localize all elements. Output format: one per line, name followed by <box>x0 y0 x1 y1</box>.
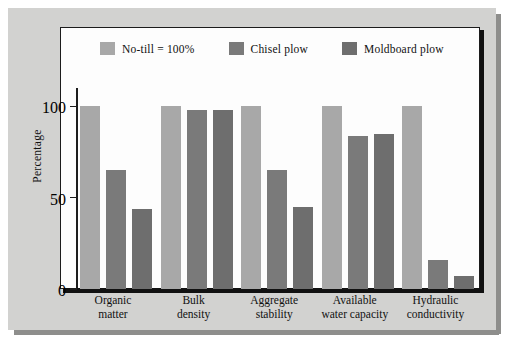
legend-item-moldboard-plow: Moldboard plow <box>342 42 444 55</box>
legend-swatch-chisel-plow <box>229 42 244 55</box>
bar <box>374 134 394 289</box>
bar <box>161 106 181 289</box>
page-bottom-shadow <box>14 330 499 335</box>
plot-area <box>77 88 480 289</box>
y-axis-title: Percentage <box>31 111 43 201</box>
panel-drop-shadow-right <box>480 30 484 291</box>
bar <box>293 207 313 289</box>
bar <box>106 170 126 289</box>
bar-group <box>402 88 474 289</box>
bar <box>187 110 207 289</box>
y-tick-label-100: 100 <box>24 99 66 113</box>
bar-group <box>241 88 313 289</box>
x-axis-label: Hydraulicconductivity <box>375 294 495 321</box>
bar <box>348 136 368 289</box>
y-tick-mark-50 <box>70 197 77 199</box>
chart-legend: No-till = 100% Chisel plow Moldboard plo… <box>100 42 444 55</box>
bar <box>322 106 342 289</box>
bar <box>80 106 100 289</box>
chart-page: No-till = 100% Chisel plow Moldboard plo… <box>0 0 509 346</box>
bar <box>241 106 261 289</box>
x-axis-label-line: Hydraulic <box>375 294 495 308</box>
legend-label-chisel-plow: Chisel plow <box>251 43 308 55</box>
bar <box>428 260 448 289</box>
legend-item-chisel-plow: Chisel plow <box>229 42 308 55</box>
page-right-shadow <box>496 14 501 334</box>
legend-swatch-moldboard-plow <box>342 42 357 55</box>
legend-label-no-till: No-till = 100% <box>122 43 195 55</box>
y-tick-mark-100 <box>70 106 77 108</box>
bar <box>454 276 474 289</box>
bar-group <box>80 88 152 289</box>
bar-group <box>322 88 394 289</box>
legend-swatch-no-till <box>100 42 115 55</box>
x-axis-label-line: conductivity <box>375 308 495 322</box>
bar <box>267 170 287 289</box>
legend-item-no-till: No-till = 100% <box>100 42 195 55</box>
y-tick-mark-0 <box>70 288 77 290</box>
bar <box>213 110 233 289</box>
bar <box>132 209 152 289</box>
bar <box>402 106 422 289</box>
bar-group <box>161 88 233 289</box>
y-tick-label-50: 50 <box>24 191 66 205</box>
legend-label-moldboard-plow: Moldboard plow <box>364 43 444 55</box>
